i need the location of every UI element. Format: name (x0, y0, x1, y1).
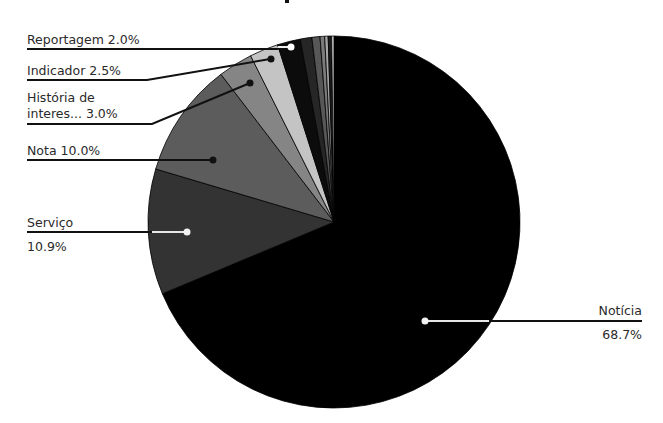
label-nota: Nota 10.0% (27, 143, 100, 158)
pie-chart: Reportagem 2.0% Indicador 2.5% História … (0, 0, 663, 423)
label-indicador: Indicador 2.5% (27, 63, 121, 78)
label-noticia-value: 68.7% (602, 327, 642, 342)
label-reportagem: Reportagem 2.0% (27, 32, 140, 47)
marker-reportagem (288, 44, 295, 51)
marker-nota (210, 157, 217, 164)
label-noticia-name: Notícia (599, 303, 642, 318)
leader-line-reportagem (27, 47, 290, 49)
label-historia-line1: História de (27, 90, 95, 105)
marker-noticia (422, 318, 429, 325)
pie-slices (148, 36, 520, 408)
title-fragment (285, 0, 289, 3)
marker-historia (247, 80, 254, 87)
label-historia-line2: interes... 3.0% (27, 106, 118, 121)
label-servico-value: 10.9% (27, 239, 67, 254)
label-servico-name: Serviço (27, 215, 73, 230)
marker-indicador (268, 56, 275, 63)
marker-servico (184, 229, 191, 236)
